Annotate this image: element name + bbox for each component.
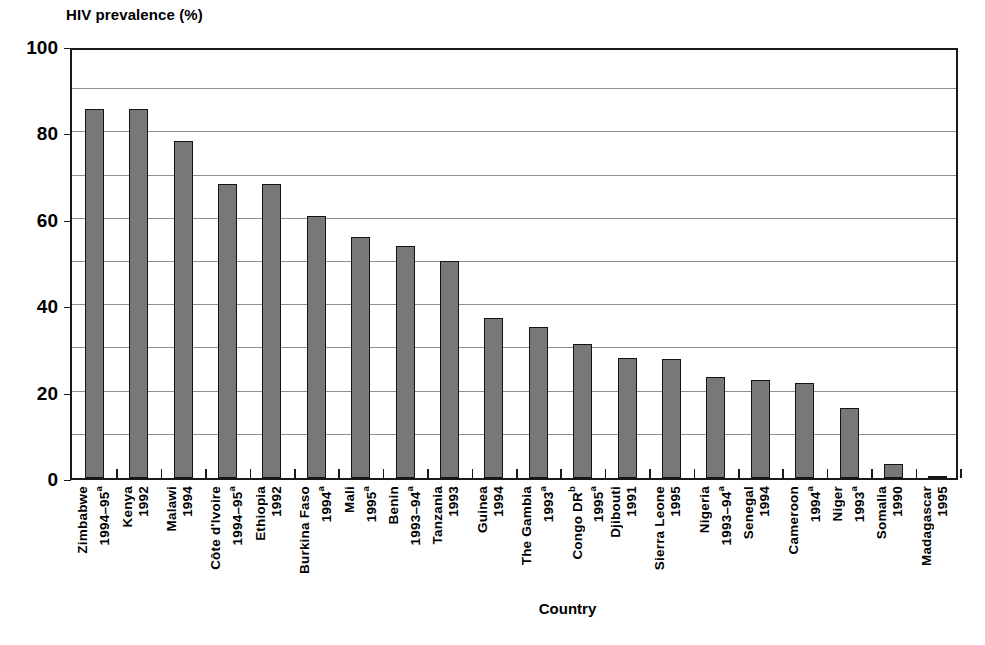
bar — [840, 408, 859, 478]
x-category-label: Congo DRb1995a — [564, 486, 607, 606]
x-category-year: 1995a — [358, 486, 380, 522]
gridline-10 — [72, 434, 956, 435]
y-tick-label-40: 40 — [0, 296, 58, 318]
x-category-label: Zimbabwe1994–95a — [75, 486, 113, 606]
x-tick — [871, 469, 873, 478]
x-category-year: 1994a — [802, 486, 824, 522]
x-category-label: The Gambia1993a — [519, 486, 557, 606]
x-tick — [161, 469, 163, 478]
x-tick — [294, 469, 296, 478]
x-tick — [782, 469, 784, 478]
x-category-year: 1995 — [668, 486, 684, 517]
bar — [662, 359, 681, 478]
x-category-label: Somalia1990 — [874, 486, 906, 606]
x-category-country: Côte d'Ivoire — [208, 486, 224, 570]
gridline-30 — [72, 347, 956, 348]
x-category-country: Sierra Leone — [652, 486, 668, 570]
gridline-90 — [72, 88, 956, 89]
x-category-label: Benin1993–94a — [386, 486, 424, 606]
x-category-year: 1995a — [585, 486, 607, 522]
x-category-label: Tanzania1993 — [430, 486, 462, 606]
y-tick-label-100: 100 — [0, 37, 58, 59]
x-category-country: Somalia — [874, 486, 890, 539]
x-category-label: Burkina Faso1994a — [297, 486, 335, 606]
y-axis-title: HIV prevalence (%) — [66, 6, 203, 23]
x-category-year: 1991 — [624, 486, 640, 517]
x-category-country: Benin — [386, 486, 402, 525]
x-category-year: 1994–95a — [91, 486, 113, 545]
x-category-country: Malawi — [164, 486, 180, 531]
x-axis-title-text: Country — [539, 600, 597, 617]
bar — [573, 344, 592, 478]
gridline-50 — [72, 261, 956, 262]
x-category-year: 1994 — [491, 486, 507, 517]
x-tick — [205, 469, 207, 478]
gridline-70 — [72, 175, 956, 176]
bar — [85, 109, 104, 478]
x-category-country: Tanzania — [430, 486, 446, 544]
y-tick-label-60: 60 — [0, 210, 58, 232]
x-tick — [472, 469, 474, 478]
bar — [396, 246, 415, 478]
x-category-country: Djibouti — [608, 486, 624, 538]
gridline-60 — [72, 218, 956, 219]
x-tick — [383, 469, 385, 478]
plot-area — [70, 48, 958, 480]
x-category-year: 1992 — [269, 486, 285, 517]
x-category-country: Mali — [342, 486, 358, 513]
x-category-label: Sierra Leone1995 — [652, 486, 684, 606]
y-tick-label-0: 0 — [0, 469, 58, 491]
x-category-country: Madagascar — [919, 486, 935, 566]
x-category-label: Nigeria1993–94a — [697, 486, 735, 606]
x-category-year: 1994–95a — [224, 486, 246, 545]
x-tick — [250, 469, 252, 478]
x-category-label: Cameroon1994a — [786, 486, 824, 606]
x-tick — [605, 469, 607, 478]
x-category-country: Nigeria — [697, 486, 713, 533]
bar — [795, 383, 814, 478]
x-tick — [116, 469, 118, 478]
x-category-label: Niger1993a — [830, 486, 868, 606]
x-tick — [427, 469, 429, 478]
bar — [751, 380, 770, 478]
x-tick — [827, 469, 829, 478]
x-axis-title: Country — [0, 600, 985, 617]
x-category-country: Cameroon — [786, 486, 802, 554]
x-category-label: Senegal1994 — [741, 486, 773, 606]
bar — [529, 327, 548, 478]
x-category-year: 1993a — [535, 486, 557, 522]
x-tick — [960, 469, 962, 478]
x-category-label: Malawi1994 — [164, 486, 196, 606]
bar — [440, 261, 459, 478]
x-category-country: Guinea — [475, 486, 491, 533]
gridline-20 — [72, 391, 956, 392]
y-tick-label-80: 80 — [0, 123, 58, 145]
x-category-year: 1994 — [180, 486, 196, 517]
bar — [928, 476, 947, 478]
y-tick-0 — [64, 480, 71, 481]
x-category-year: 1993a — [846, 486, 868, 522]
x-category-label: Mali1995a — [342, 486, 380, 606]
x-category-label: Côte d'Ivoire1994–95a — [208, 486, 246, 606]
bar — [884, 464, 903, 478]
x-tick — [649, 469, 651, 478]
gridline-40 — [72, 304, 956, 305]
x-category-label: Guinea1994 — [475, 486, 507, 606]
x-category-year: 1993–94a — [402, 486, 424, 545]
x-category-country: Burkina Faso — [297, 486, 313, 574]
x-tick — [694, 469, 696, 478]
x-category-label: Ethiopia1992 — [253, 486, 285, 606]
x-category-country: Congo DRb — [564, 486, 586, 560]
bar — [706, 377, 725, 478]
bar — [618, 358, 637, 478]
plot-inner — [72, 50, 956, 478]
bar — [174, 141, 193, 478]
bar — [351, 237, 370, 478]
x-category-label: Madagascar1995 — [919, 486, 951, 606]
gridline-80 — [72, 131, 956, 132]
x-category-country: Senegal — [741, 486, 757, 539]
x-tick — [338, 469, 340, 478]
x-category-year: 1994a — [313, 486, 335, 522]
x-category-country: Kenya — [120, 486, 136, 528]
x-category-country: Zimbabwe — [75, 486, 91, 554]
